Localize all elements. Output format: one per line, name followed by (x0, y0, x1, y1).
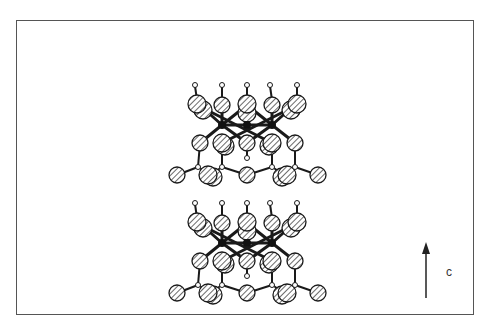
c-axis-label: c (446, 265, 452, 279)
crystal-structure-diagram (0, 0, 494, 330)
molecular-layer-lower (169, 201, 326, 305)
c-axis-arrow-icon (422, 242, 430, 298)
molecular-layer-upper (169, 83, 326, 187)
